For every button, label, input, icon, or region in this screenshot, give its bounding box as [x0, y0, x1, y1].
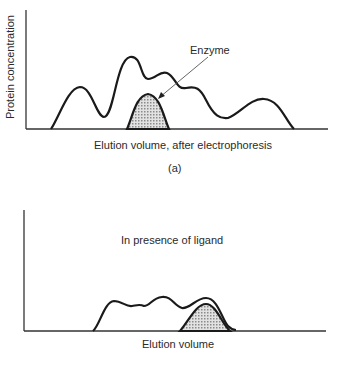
enzyme-label: Enzyme: [190, 44, 230, 56]
ligand-label: In presence of ligand: [121, 234, 223, 246]
panel-a-caption: (a): [168, 162, 181, 174]
enzyme-peak: [127, 94, 169, 129]
panel-b-chart: [24, 210, 326, 331]
panel-b-x-axis-label: Elution volume: [142, 338, 214, 350]
panel-a-y-axis-label: Protein concentration: [4, 15, 16, 119]
protein-profile-curve: [51, 57, 294, 129]
panel-a-chart: [26, 10, 328, 129]
diagram-canvas: [0, 0, 348, 365]
panel-a-x-axis-label: Elution volume, after electrophoresis: [94, 139, 272, 151]
enzyme-arrow-head: [158, 92, 165, 99]
